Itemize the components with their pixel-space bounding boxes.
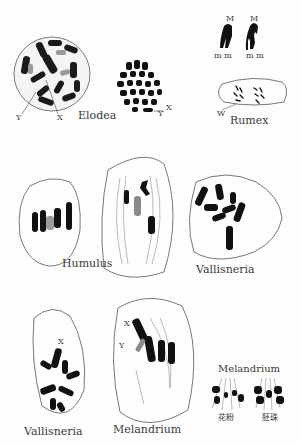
label-mm-left: m m xyxy=(214,52,232,60)
melandrium-anaphase-drawing xyxy=(212,378,284,410)
melandrium-cell-drawing xyxy=(113,298,193,422)
label-humulus: Humulus xyxy=(62,258,112,269)
elodea-cell-drawing xyxy=(14,37,90,114)
label-vallisneria-top: Vallisneria xyxy=(196,264,255,275)
label-elodea-y: Y xyxy=(16,114,21,122)
label-m-left: M xyxy=(226,15,234,23)
label-vallisneria-x: X xyxy=(58,338,64,346)
label-plate-y: Y xyxy=(158,110,163,118)
label-melandrium: Melandrium xyxy=(113,424,181,435)
vallisneria-bottom-drawing xyxy=(33,309,85,413)
chromosome-figure: Elodea Y X X Y M M m m m m W Rumex Humul… xyxy=(0,0,302,446)
label-rumex: Rumex xyxy=(230,115,269,126)
label-elodea-x: X xyxy=(57,114,63,122)
elodea-plate-drawing xyxy=(117,60,164,112)
label-rumex-w: W xyxy=(217,110,225,118)
label-pollen: 花粉 xyxy=(218,414,234,422)
label-ovule: 胚珠 xyxy=(262,414,278,422)
vallisneria-top-drawing xyxy=(189,175,282,259)
humulus-drawing xyxy=(19,179,80,266)
label-mm-right: m m xyxy=(246,52,264,60)
label-vallisneria-bottom: Vallisneria xyxy=(24,426,83,437)
label-elodea: Elodea xyxy=(78,110,116,121)
label-plate-x: X xyxy=(166,104,172,112)
label-m-right: M xyxy=(250,15,258,23)
m-chromosome-drawing xyxy=(220,23,258,50)
label-melandrium-x: X xyxy=(124,320,130,328)
rumex-drawing xyxy=(218,78,286,110)
label-melandrium-right: Melandrium xyxy=(218,364,280,374)
label-melandrium-y: Y xyxy=(119,342,124,350)
